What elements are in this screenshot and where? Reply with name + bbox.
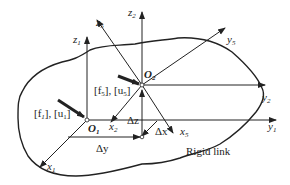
- offset-corner-point: [140, 135, 144, 139]
- frame-2: [111, 12, 265, 122]
- label-o2: O2: [144, 68, 156, 82]
- label-y5: y5: [226, 33, 236, 47]
- label-dx: Δx: [155, 125, 168, 137]
- label-y2: y2: [261, 91, 271, 105]
- label-z5: z5: [95, 16, 104, 30]
- label-z1: z1: [72, 33, 81, 47]
- label-force-1: [f1], [u1]: [34, 107, 70, 121]
- label-dz: Δz: [127, 114, 139, 126]
- origin-o2-point: [140, 83, 144, 87]
- rigid-link-diagram: z5 z2 z1 y5 y2 y1 x1 x2 x5 O1 O2 Δz Δy Δ…: [0, 0, 290, 185]
- label-dy: Δy: [96, 142, 109, 154]
- label-z2: z2: [127, 6, 136, 20]
- label-x5: x5: [179, 125, 189, 139]
- label-o1: O1: [88, 122, 99, 136]
- label-force-5: [f5], [u5]: [94, 84, 130, 98]
- label-x2: x2: [108, 120, 118, 134]
- label-x1: x1: [46, 160, 55, 174]
- label-y1: y1: [267, 120, 276, 134]
- frame-1: [40, 37, 276, 167]
- force-arrow-5: [118, 76, 139, 84]
- label-rigid-link: Rigid link: [186, 145, 231, 157]
